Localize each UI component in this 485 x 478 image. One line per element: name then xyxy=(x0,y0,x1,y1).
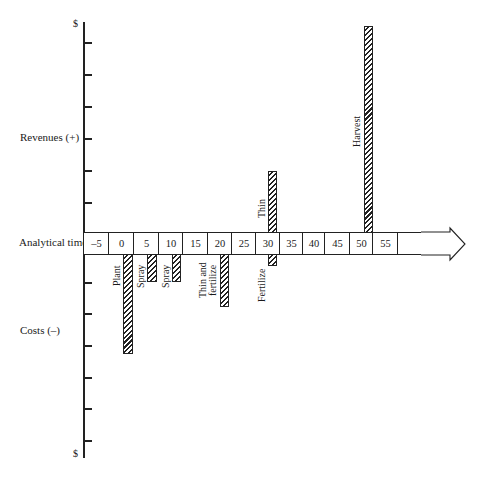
y-axis-upper xyxy=(83,22,85,232)
bar-plant-cost xyxy=(123,254,133,354)
y-tick xyxy=(83,282,92,284)
time-cell: 20 xyxy=(207,232,232,255)
label-harvest: Harvest xyxy=(351,116,362,147)
time-cell: 15 xyxy=(182,232,208,255)
time-cell: 45 xyxy=(324,232,350,255)
time-cell: 0 xyxy=(108,232,134,255)
y-tick xyxy=(83,170,92,172)
y-axis-lower xyxy=(83,255,85,458)
y-tick xyxy=(83,408,92,410)
label-spray-10: Spray xyxy=(160,265,171,288)
y-tick xyxy=(83,202,92,204)
time-arrow-icon xyxy=(420,226,470,262)
bar-thin-fertilize-cost xyxy=(220,254,229,307)
time-cell: 40 xyxy=(302,232,325,255)
time-cell: 55 xyxy=(372,232,398,255)
label-fertilize: Fertilize xyxy=(256,269,267,302)
label-fertilize-2: fertilize xyxy=(207,265,218,296)
revenues-label: Revenues (+) xyxy=(20,131,79,143)
bar-harvest-revenue xyxy=(364,26,373,233)
bar-spray-5-cost xyxy=(147,254,157,282)
time-cell: –5 xyxy=(83,232,109,255)
y-tick xyxy=(83,106,92,108)
bar-fertilize-cost xyxy=(268,254,277,266)
analytical-time-label: Analytical time xyxy=(19,236,87,248)
time-cell xyxy=(397,232,422,255)
y-tick xyxy=(83,345,92,347)
time-cell: 25 xyxy=(231,232,256,255)
y-tick xyxy=(83,42,92,44)
time-cell: 35 xyxy=(279,232,303,255)
time-cell: 10 xyxy=(158,232,183,255)
label-plant: Plant xyxy=(111,265,122,286)
bar-thin-revenue xyxy=(268,171,277,233)
y-tick xyxy=(83,138,92,140)
y-tick xyxy=(83,440,92,442)
bar-spray-10-cost xyxy=(172,254,181,282)
y-tick xyxy=(83,74,92,76)
y-tick xyxy=(83,313,92,315)
costs-label: Costs (–) xyxy=(20,324,60,336)
y-axis-bottom-dollar: $ xyxy=(73,448,78,459)
label-thin: Thin xyxy=(256,199,267,218)
label-spray-5: Spray xyxy=(135,265,146,288)
time-cell: 5 xyxy=(133,232,159,255)
time-cell: 30 xyxy=(255,232,280,255)
time-cell: 50 xyxy=(349,232,373,255)
y-tick xyxy=(83,377,92,379)
y-axis-top-dollar: $ xyxy=(73,18,78,29)
